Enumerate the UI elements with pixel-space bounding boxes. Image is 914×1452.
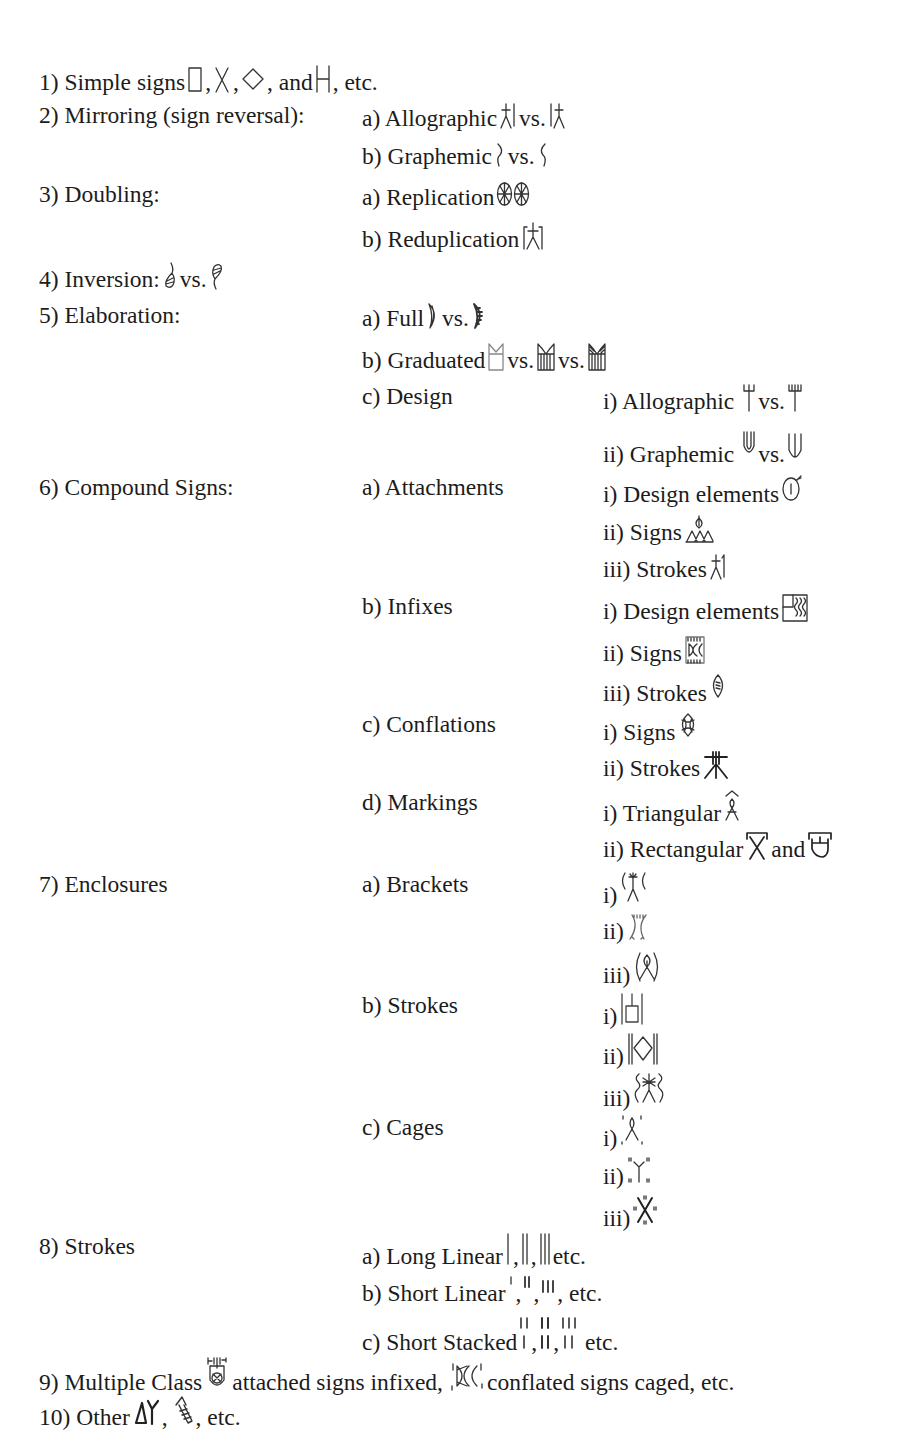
short-2-stroke-icon [523,1275,531,1291]
stacked-3-stroke-icon [561,1316,577,1352]
row-6biii-strokes: iii) Strokes [603,673,729,705]
row-6aiii-strokes: iii) Strokes [603,553,729,581]
hatched-jar-sign-icon [536,342,556,372]
row-6d-markings: d) Markings [362,791,478,815]
row-6b-infixes: b) Infixes [362,595,453,619]
bracketed-man-sign-icon [619,871,649,903]
row-5a-full: a) Full vs. [362,302,487,330]
row-7bi: i) [603,992,647,1028]
row-2-mirroring: 2) Mirroring (sign reversal): [39,104,305,128]
long-2-stroke-icon [521,1232,529,1266]
bracketed-fish-sign-icon [632,951,662,985]
x-sign-icon [213,66,231,94]
row-1-simple-signs: 1) Simple signs , , , and , etc. [39,64,378,94]
row-7aii: ii) [603,911,652,943]
caged-figure-sign-icon [619,1114,645,1148]
jar-sign-icon [487,342,505,372]
square-waves-sign-icon [781,593,809,623]
caged-x-sign-icon [632,1194,658,1226]
oval-cross-sign-icon [677,712,699,738]
short-3-stroke-icon [541,1279,555,1295]
oval-attach-sign-icon [781,474,803,502]
double-wheel-sign-icon [496,181,530,209]
row-3-doubling: 3) Doubling: [39,183,160,207]
row-7ciii: iii) [603,1194,660,1230]
row-5ci-allographic: i) Allographic vs. [603,383,805,413]
row-7ai: i) [603,871,651,907]
bracket-right-sign-icon [494,142,506,168]
multi-jar-sign-icon [204,1356,230,1392]
full-hatched-jar-sign-icon [587,342,607,372]
row-3b-reduplication: b) Reduplication [362,221,547,251]
row-5cii-graphemic: ii) Graphemic vs. [603,430,805,466]
row-7b-strokes: b) Strokes [362,994,458,1018]
other-1-sign-icon [132,1397,160,1427]
row-5c-design: c) Design [362,385,453,409]
row-10-other: 10) Other , , etc. [39,1395,241,1429]
row-6di-triangular: i) Triangular [603,789,743,825]
diamond-sign-icon [241,66,265,94]
row-8b-short-linear: b) Short Linear , , , etc. [362,1275,602,1305]
label: 1) Simple signs [39,71,185,95]
u-variant-sign-icon [787,432,803,462]
row-7c-cages: c) Cages [362,1116,444,1140]
trident-sign-icon [742,383,756,413]
stroked-box-sign-icon [619,992,645,1026]
row-6c-conflations: c) Conflations [362,713,496,737]
trident-variant-sign-icon [787,383,803,413]
row-4-inversion: 4) Inversion: vs. [39,261,227,291]
box-infix-sign-icon [684,635,706,665]
crescent-sign-icon [426,302,440,330]
bracketed-empty-sign-icon [626,911,650,941]
row-6ai-design-elements: i) Design elements [603,474,805,506]
row-7aiii: iii) [603,951,664,987]
row-6aii-signs: ii) Signs [603,514,716,544]
fish-sign-icon [162,261,178,291]
stroked-man-sign-icon [632,1072,666,1106]
caged-y-sign-icon [626,1154,652,1186]
stroked-diamond-sign-icon [626,1032,660,1066]
row-5b-graduated: b) Graduated vs. vs. [362,342,609,372]
inverted-fish-sign-icon [209,261,225,291]
bar-x-sign-icon [745,831,769,861]
hat-figure-sign-icon [723,789,741,823]
row-7ci: i) [603,1114,647,1150]
row-7cii: ii) [603,1154,654,1188]
row-3a-replication: a) Replication [362,181,532,209]
box-sign-icon [187,66,203,94]
short-1-stroke-icon [508,1275,514,1287]
row-7a-brackets: a) Brackets [362,873,468,897]
row-6bii-signs: ii) Signs [603,635,708,665]
bracket-left-sign-icon [537,142,549,168]
leaf-triangles-sign-icon [684,514,714,544]
row-2a-allographic: a) Allographic vs. [362,102,568,130]
man-pole-sign-icon [499,102,517,130]
row-8c-short-stacked: c) Short Stacked , , etc. [362,1316,618,1354]
long-1-stroke-icon [505,1232,511,1266]
man-stroke-sign-icon [709,553,727,581]
row-9-multiple-class: 9) Multiple Class attached signs infixed… [39,1356,734,1394]
hatched-crescent-sign-icon [471,302,485,330]
h-sign-icon [315,64,331,94]
pole-man-sign-icon [548,102,566,130]
row-7biii: iii) [603,1072,668,1110]
u-sign-icon [742,430,756,456]
row-2b-graphemic: b) Graphemic vs. [362,142,551,168]
bar-cup-sign-icon [807,831,833,861]
other-2-sign-icon [170,1395,194,1427]
asterisk-sign-icon [702,750,730,780]
row-6a-attachments: a) Attachments [362,476,504,500]
row-6bi-design-elements: i) Design elements [603,593,811,623]
row-8a-long-linear: a) Long Linear , , etc. [362,1232,586,1268]
row-7-enclosures: 7) Enclosures [39,873,168,897]
row-6-compound-signs: 6) Compound Signs: [39,476,234,500]
row-7bii: ii) [603,1032,662,1068]
poles-man-sign-icon [521,221,545,251]
caged-conflated-sign-icon [449,1360,485,1392]
row-6ci-signs: i) Signs [603,712,701,744]
row-6cii-strokes: ii) Strokes [603,750,732,780]
stacked-1-stroke-icon [519,1316,529,1352]
long-3-stroke-icon [539,1232,551,1266]
oval-strokes-sign-icon [709,673,727,699]
stacked-2-stroke-icon [539,1316,551,1352]
